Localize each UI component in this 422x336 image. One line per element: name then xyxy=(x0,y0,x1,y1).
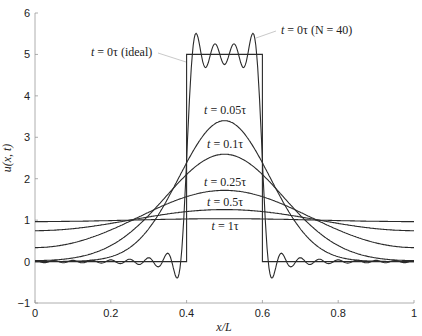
y-tick-label: 6 xyxy=(24,7,30,19)
series-annotation: t = 0.25τ xyxy=(204,175,246,189)
x-tick-label: 0.8 xyxy=(331,307,346,319)
annotation-leader xyxy=(256,31,276,38)
x-tick-label: 0.4 xyxy=(179,307,194,319)
x-tick-label: 0 xyxy=(32,307,38,319)
y-tick-label: 0 xyxy=(24,256,30,268)
y-tick-label: −1 xyxy=(17,297,30,309)
x-tick-label: 0.6 xyxy=(255,307,270,319)
y-tick-label: 3 xyxy=(24,131,30,143)
curves xyxy=(35,33,414,278)
heat-diffusion-chart: −1012345600.20.40.60.81 t = 0τ (ideal)t … xyxy=(0,0,422,336)
series-annotation: t = 1τ xyxy=(212,219,239,233)
series-annotation: t = 0.5τ xyxy=(207,195,243,209)
y-axis-label: u(x, t) xyxy=(0,144,14,173)
annotation-leader xyxy=(158,53,186,62)
series-t-0 xyxy=(35,33,414,278)
series-annotation: t = 0τ (N = 40) xyxy=(281,23,352,37)
x-tick-label: 0.2 xyxy=(103,307,118,319)
series-annotation: t = 0.05τ xyxy=(204,103,246,117)
x-axis-label: x/L xyxy=(215,320,232,334)
y-tick-label: 1 xyxy=(24,214,30,226)
y-tick-label: 5 xyxy=(24,48,30,60)
axes: −1012345600.20.40.60.81 xyxy=(17,7,417,319)
series-annotation: t = 0τ (ideal) xyxy=(91,45,152,59)
series-annotation: t = 0.1τ xyxy=(207,137,243,151)
y-tick-label: 4 xyxy=(24,90,30,102)
x-tick-label: 1 xyxy=(411,307,417,319)
y-tick-label: 2 xyxy=(24,173,30,185)
